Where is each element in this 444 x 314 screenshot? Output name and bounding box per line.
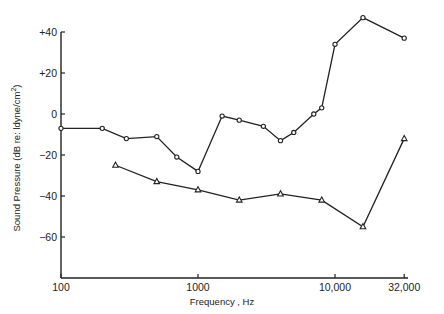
data-point-triangle	[278, 191, 284, 196]
y-tick-label: +40	[39, 26, 57, 38]
data-point-circle	[312, 112, 316, 116]
data-point-triangle	[113, 162, 119, 167]
data-point-circle	[278, 139, 282, 143]
y-axis-title: Sound Pressure (dB re: ldyne/cm2)	[10, 84, 22, 231]
series-circles	[59, 16, 406, 174]
data-point-triangle	[195, 187, 201, 192]
y-tick-label: −20	[39, 149, 57, 161]
data-point-circle	[261, 124, 265, 128]
data-point-circle	[220, 114, 224, 118]
data-point-circle	[333, 42, 337, 46]
data-point-circle	[361, 16, 365, 20]
y-axis: +40+200−20−40−60	[39, 26, 65, 278]
x-tick-label: 1000	[186, 281, 210, 293]
data-point-circle	[124, 137, 128, 141]
data-point-triangle	[319, 197, 325, 202]
plot-area	[59, 16, 407, 229]
data-point-triangle	[236, 197, 242, 202]
data-point-circle	[59, 126, 63, 130]
data-point-triangle	[154, 178, 160, 183]
x-axis-title: Frequency , Hz	[190, 296, 255, 307]
x-tick-label: 100	[52, 281, 70, 293]
data-point-circle	[237, 118, 241, 122]
data-point-circle	[155, 134, 159, 138]
data-point-triangle	[401, 135, 407, 140]
y-tick-label: 0	[51, 108, 57, 120]
y-tick-label: +20	[39, 67, 57, 79]
data-point-circle	[292, 130, 296, 134]
data-point-circle	[320, 106, 324, 110]
x-tick-label: 32,000	[388, 281, 420, 293]
chart: +40+200−20−40−60 100100010,00032,000 Fre…	[0, 0, 444, 314]
data-point-circle	[100, 126, 104, 130]
x-tick-label: 10,000	[319, 281, 351, 293]
data-point-triangle	[360, 224, 366, 229]
data-point-circle	[402, 36, 406, 40]
y-tick-label: −40	[39, 190, 57, 202]
y-tick-label: −60	[39, 231, 57, 243]
series-triangles	[113, 135, 407, 228]
x-axis: 100100010,00032,000	[52, 274, 420, 293]
data-point-circle	[196, 169, 200, 173]
data-point-circle	[175, 155, 179, 159]
